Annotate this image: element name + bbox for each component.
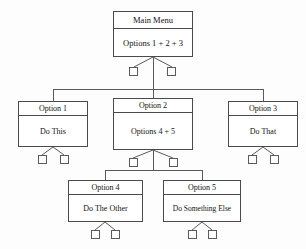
node-option-2-body: Options 4 + 5: [114, 113, 192, 149]
stub-option-4-2[interactable]: [111, 230, 120, 239]
node-option-3[interactable]: Option 3 Do That: [228, 101, 298, 147]
node-option-1[interactable]: Option 1 Do This: [18, 101, 88, 147]
node-option-3-title: Option 3: [229, 102, 297, 116]
node-main-menu-body: Options 1 + 2 + 3: [114, 29, 192, 56]
stub-option-2-1[interactable]: [129, 158, 138, 167]
stub-main-menu-2[interactable]: [167, 67, 176, 76]
node-option-1-title: Option 1: [19, 102, 87, 116]
node-option-5-title: Option 5: [164, 181, 240, 195]
stub-option-1-2[interactable]: [60, 155, 69, 164]
node-option-1-body: Do This: [19, 116, 87, 146]
stub-main-menu-1[interactable]: [129, 67, 138, 76]
node-option-5-body: Do Something Else: [164, 195, 240, 221]
node-option-2[interactable]: Option 2 Options 4 + 5: [113, 98, 193, 150]
stub-option-4-1[interactable]: [91, 230, 100, 239]
stub-option-5-2[interactable]: [208, 230, 217, 239]
stub-option-2-2[interactable]: [169, 158, 178, 167]
stub-option-3-1[interactable]: [248, 155, 257, 164]
node-option-4-title: Option 4: [69, 181, 142, 195]
stub-option-3-2[interactable]: [270, 155, 279, 164]
stub-option-1-1[interactable]: [38, 155, 47, 164]
node-option-4-body: Do The Other: [69, 195, 142, 221]
option-1-stub-connectors: [42, 147, 64, 155]
option-3-stub-connectors: [252, 147, 274, 155]
node-main-menu-title: Main Menu: [114, 12, 192, 29]
option-4-stub-connectors: [95, 222, 115, 230]
node-option-3-body: Do That: [229, 116, 297, 146]
node-option-4[interactable]: Option 4 Do The Other: [68, 180, 143, 222]
option-5-stub-connectors: [192, 222, 212, 230]
stub-option-5-1[interactable]: [188, 230, 197, 239]
node-option-2-title: Option 2: [114, 99, 192, 113]
menu-hierarchy-diagram: Main Menu Options 1 + 2 + 3 Option 1 Do …: [0, 0, 306, 249]
node-option-5[interactable]: Option 5 Do Something Else: [163, 180, 241, 222]
node-main-menu[interactable]: Main Menu Options 1 + 2 + 3: [113, 11, 193, 57]
